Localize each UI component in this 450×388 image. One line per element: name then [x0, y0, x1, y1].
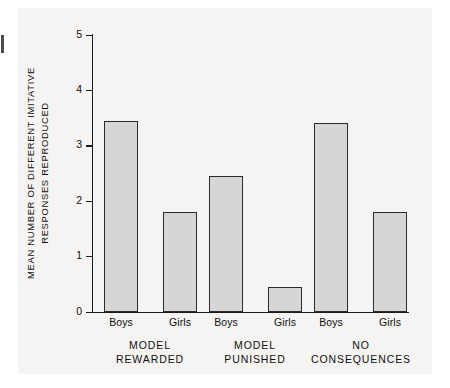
y-axis-line	[92, 34, 93, 313]
y-tick-label-3: 3	[76, 138, 82, 151]
x-tick-label-girls-3: Girls	[370, 316, 410, 328]
bar-no-consequences-girls	[373, 212, 407, 312]
y-tick-mark-0	[86, 312, 92, 313]
y-axis-title-line1: MEAN NUMBER OF DIFFERENT IMITATIVE	[25, 67, 36, 279]
bar-model-punished-girls	[268, 287, 302, 312]
x-axis-line	[92, 312, 409, 313]
y-axis-title: MEAN NUMBER OF DIFFERENT IMITATIVE RESPO…	[24, 42, 50, 304]
bar-chart: MEAN NUMBER OF DIFFERENT IMITATIVE RESPO…	[0, 0, 450, 388]
y-tick-mark-1	[86, 256, 92, 257]
group-label-model-punished-line2: PUNISHED	[200, 352, 310, 366]
y-tick-label-0: 0	[76, 305, 82, 318]
x-tick-label-girls-2: Girls	[265, 316, 305, 328]
bar-model-rewarded-girls	[163, 212, 197, 312]
y-tick-mark-2	[86, 201, 92, 202]
group-label-model-punished-line1: MODEL	[234, 339, 276, 351]
group-label-model-rewarded-line1: MODEL	[129, 339, 171, 351]
y-tick-label-5: 5	[76, 28, 82, 41]
x-tick-label-boys-3: Boys	[311, 316, 351, 328]
y-tick-label-2: 2	[76, 194, 82, 207]
figure-root: MEAN NUMBER OF DIFFERENT IMITATIVE RESPO…	[0, 0, 450, 388]
group-label-no-consequences-line1: NO	[352, 339, 370, 351]
bar-model-punished-boys	[209, 176, 243, 312]
x-tick-label-boys-2: Boys	[206, 316, 246, 328]
x-tick-label-boys-1: Boys	[101, 316, 141, 328]
group-label-model-punished: MODEL PUNISHED	[200, 338, 310, 366]
bar-model-rewarded-boys	[104, 121, 138, 312]
y-tick-mark-3	[86, 145, 92, 146]
bar-no-consequences-boys	[314, 123, 348, 311]
group-label-model-rewarded-line2: REWARDED	[95, 352, 205, 366]
y-tick-label-1: 1	[76, 249, 82, 262]
group-label-no-consequences-line2: CONSEQUENCES	[305, 352, 417, 366]
y-axis-title-line2: RESPONSES REPRODUCED	[38, 102, 49, 244]
group-label-model-rewarded: MODEL REWARDED	[95, 338, 205, 366]
group-label-no-consequences: NO CONSEQUENCES	[305, 338, 417, 366]
y-tick-label-4: 4	[76, 83, 82, 96]
y-tick-mark-4	[86, 90, 92, 91]
x-tick-label-girls-1: Girls	[160, 316, 200, 328]
y-tick-mark-5	[86, 35, 92, 36]
